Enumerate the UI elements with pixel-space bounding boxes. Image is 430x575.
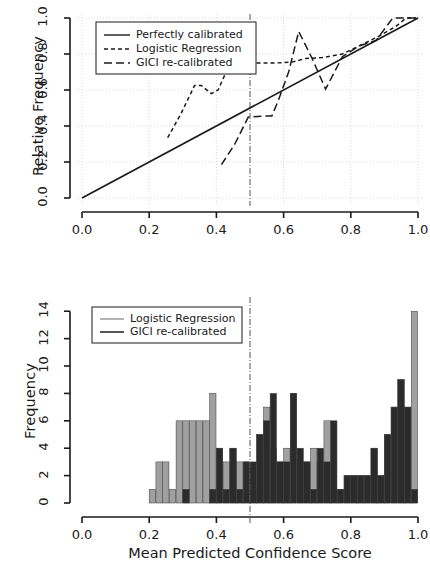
bot-y-tick-3: 6 <box>36 404 51 434</box>
bot-x-tick-1: 0.2 <box>134 527 164 542</box>
bar-gici <box>391 407 397 503</box>
y-tick-2: 0.4 <box>35 110 50 140</box>
bar-gici <box>304 462 310 503</box>
bar-gici <box>216 448 222 503</box>
bar-gici <box>270 393 276 503</box>
x-tick-0: 0.0 <box>67 222 97 237</box>
bar-logistic <box>411 311 417 503</box>
bar-gici <box>344 476 350 503</box>
bar-gici <box>324 462 330 503</box>
bar-gici <box>405 407 411 503</box>
bar-logistic <box>169 489 175 503</box>
bot-y-tick-2: 4 <box>36 432 51 462</box>
bar-gici <box>398 380 404 503</box>
bar-gici <box>317 448 323 503</box>
bar-logistic <box>156 462 162 503</box>
bar-gici <box>411 489 417 503</box>
bar-gici <box>257 435 263 503</box>
bar-logistic <box>190 421 196 503</box>
bar-gici <box>331 421 337 503</box>
bottom-x-axis-label: Mean Predicted Confidence Score <box>82 545 418 561</box>
bar-logistic <box>176 421 182 503</box>
y-tick-3: 0.6 <box>35 74 50 104</box>
bar-gici <box>371 448 377 503</box>
bar-logistic <box>149 489 155 503</box>
bar-logistic <box>203 421 209 503</box>
bar-gici <box>223 489 229 503</box>
histogram-panel: Frequency 0.00.20.40.60.81.002468101214 … <box>0 285 430 575</box>
x-tick-3: 0.6 <box>269 222 299 237</box>
bar-gici <box>237 489 243 503</box>
bot-y-tick-6: 12 <box>36 322 51 352</box>
bar-gici <box>210 489 216 503</box>
bot-y-tick-4: 8 <box>36 377 51 407</box>
top-legend-item-1: Logistic Regression <box>136 42 242 55</box>
bot-y-tick-0: 0 <box>36 487 51 517</box>
bar-gici <box>337 489 343 503</box>
bar-gici <box>284 462 290 503</box>
bar-gici <box>297 448 303 503</box>
y-tick-5: 1.0 <box>35 2 50 32</box>
y-tick-0: 0.0 <box>35 182 50 212</box>
bar-gici <box>310 489 316 503</box>
bot-x-tick-0: 0.0 <box>67 527 97 542</box>
bar-gici <box>263 421 269 503</box>
x-tick-4: 0.8 <box>336 222 366 237</box>
bar-gici <box>277 462 283 503</box>
y-tick-4: 0.8 <box>35 38 50 68</box>
x-tick-1: 0.2 <box>134 222 164 237</box>
bar-gici <box>230 448 236 503</box>
calibration-panel: Relative Frequency 0.00.00.20.20.40.40.6… <box>0 0 430 290</box>
bar-gici <box>358 476 364 503</box>
x-tick-2: 0.4 <box>201 222 231 237</box>
bot-x-tick-4: 0.8 <box>336 527 366 542</box>
bar-logistic <box>210 393 216 503</box>
bot-y-tick-1: 2 <box>36 459 51 489</box>
bar-gici <box>243 462 249 503</box>
bot-y-tick-5: 10 <box>36 350 51 380</box>
bar-gici <box>250 462 256 503</box>
bottom-legend-item-1: GICI re-calibrated <box>130 325 226 338</box>
bar-gici <box>378 476 384 503</box>
figure-root: Relative Frequency 0.00.00.20.20.40.40.6… <box>0 0 430 575</box>
bar-logistic <box>196 421 202 503</box>
bar-gici <box>384 435 390 503</box>
bottom-legend-item-0: Logistic Regression <box>130 312 236 325</box>
bar-gici <box>290 393 296 503</box>
top-legend-item-0: Perfectly calibrated <box>136 28 243 41</box>
bot-x-tick-2: 0.4 <box>201 527 231 542</box>
y-tick-1: 0.2 <box>35 146 50 176</box>
bot-x-tick-3: 0.6 <box>269 527 299 542</box>
x-tick-5: 1.0 <box>403 222 430 237</box>
bar-gici <box>364 476 370 503</box>
bar-gici <box>183 489 189 503</box>
bot-x-tick-5: 1.0 <box>403 527 430 542</box>
bar-logistic <box>163 462 169 503</box>
bar-gici <box>351 476 357 503</box>
top-legend-item-2: GICI re-calibrated <box>136 56 232 69</box>
bot-y-tick-7: 14 <box>36 295 51 325</box>
